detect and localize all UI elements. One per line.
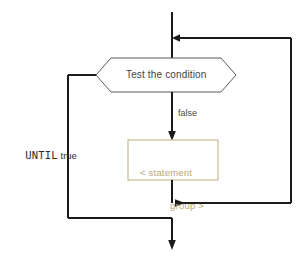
statement-label-line1: < statement [128,168,218,179]
loopback-arrowhead-icon [172,34,180,42]
statement-label-line2: group > [128,201,218,212]
false-branch-label: false [178,108,197,118]
exit-arrowhead-icon [168,240,176,250]
until-keyword: UNTIL [25,149,58,161]
until-value: true [61,150,77,161]
decision-label: Test the condition [126,69,207,81]
statement-label: < statement group > [128,146,218,233]
flowchart-canvas: Test the condition false UNTIL true < st… [0,0,303,257]
until-branch-label: UNTIL true [14,137,77,173]
